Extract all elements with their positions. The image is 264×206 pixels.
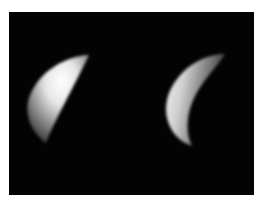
right-crescent	[166, 54, 225, 146]
space-image-frame	[9, 12, 254, 195]
left-crescent	[27, 55, 89, 143]
crescents-illustration	[9, 12, 254, 195]
